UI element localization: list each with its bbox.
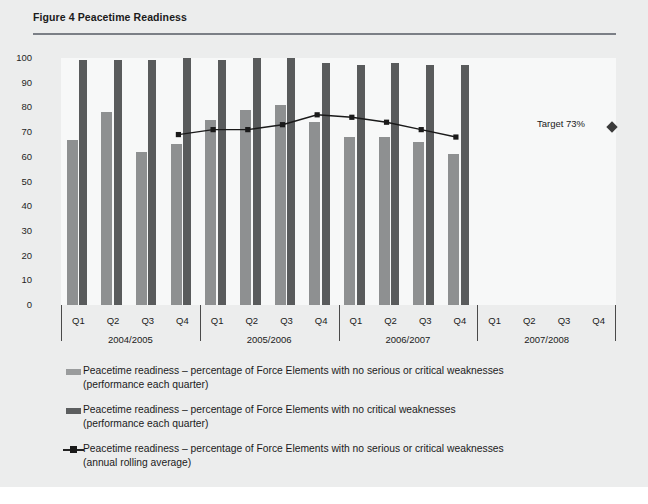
title-divider <box>33 33 616 35</box>
bar-dark-2005-2006-Q1 <box>218 60 226 305</box>
axis-separator <box>339 305 340 341</box>
axis-separator <box>61 305 62 341</box>
legend-item-label: Peacetime readiness – percentage of Forc… <box>83 403 616 431</box>
bar-light-2004-2005-Q3 <box>136 152 147 305</box>
bar-light-2005-2006-Q4 <box>309 122 320 305</box>
x-axis-year-label: 2005/2006 <box>209 334 329 345</box>
legend-label-line-1: Peacetime readiness – percentage of Forc… <box>83 404 456 415</box>
rolling-average-point-2006-2007-Q1 <box>349 115 354 120</box>
x-axis-year-label: 2007/2008 <box>487 334 607 345</box>
y-axis-tick-label: 0 <box>10 299 32 310</box>
legend-item-3: Peacetime readiness – percentage of Forc… <box>33 442 616 470</box>
bar-dark-2006-2007-Q2 <box>391 63 399 305</box>
rolling-average-point-2005-2006-Q4 <box>315 112 320 117</box>
y-axis-tick-label: 40 <box>10 200 32 211</box>
legend-label-line-1: Peacetime readiness – percentage of Forc… <box>83 443 504 454</box>
legend-label-line-1: Peacetime readiness – percentage of Forc… <box>83 365 504 376</box>
bar-light-2006-2007-Q4 <box>448 154 459 305</box>
target-label: Target 73% <box>537 118 585 129</box>
rolling-average-point-2006-2007-Q2 <box>384 120 389 125</box>
legend-dark-bar-icon <box>66 408 81 414</box>
legend-item-label: Peacetime readiness – percentage of Forc… <box>83 364 616 392</box>
bar-dark-2004-2005-Q2 <box>114 60 122 305</box>
y-axis-tick-label: 20 <box>10 250 32 261</box>
figure-container: Figure 4 Peacetime Readiness 10090807060… <box>0 0 648 504</box>
plot-area <box>61 58 616 305</box>
x-axis-quarter-label: Q2 <box>98 315 128 326</box>
legend-item-2: Peacetime readiness – percentage of Forc… <box>33 403 616 431</box>
bar-light-2004-2005-Q1 <box>67 140 78 305</box>
x-axis-quarter-label: Q1 <box>202 315 232 326</box>
legend: Peacetime readiness – percentage of Forc… <box>33 364 616 481</box>
axis-separator <box>615 305 616 341</box>
y-axis-tick-label: 10 <box>10 274 32 285</box>
legend-label-line-2: (annual rolling average) <box>83 456 616 470</box>
bar-dark-2004-2005-Q1 <box>79 60 87 305</box>
bar-dark-2005-2006-Q4 <box>322 63 330 305</box>
figure-title: Figure 4 Peacetime Readiness <box>33 11 187 23</box>
bar-dark-2005-2006-Q2 <box>253 58 261 305</box>
x-axis-quarter-label: Q4 <box>445 315 475 326</box>
rolling-average-point-2006-2007-Q4 <box>453 134 458 139</box>
x-axis-band: Q1Q2Q3Q4Q1Q2Q3Q4Q1Q2Q3Q4Q1Q2Q3Q42004/200… <box>61 305 616 357</box>
axis-separator <box>200 305 201 341</box>
rolling-average-point-2004-2005-Q4 <box>176 132 181 137</box>
x-axis-quarter-label: Q4 <box>167 315 197 326</box>
y-axis-tick-label: 80 <box>10 101 32 112</box>
bar-dark-2006-2007-Q1 <box>357 65 365 305</box>
legend-light-bar-icon <box>66 369 81 375</box>
legend-label-line-2: (performance each quarter) <box>83 417 616 431</box>
y-axis-tick-label: 50 <box>10 176 32 187</box>
bar-dark-2006-2007-Q3 <box>426 65 434 305</box>
bar-light-2005-2006-Q3 <box>275 105 286 305</box>
x-axis-quarter-label: Q2 <box>514 315 544 326</box>
bar-light-2005-2006-Q2 <box>240 110 251 305</box>
x-axis-quarter-label: Q1 <box>480 315 510 326</box>
x-axis-quarter-label: Q4 <box>306 315 336 326</box>
bar-light-2006-2007-Q1 <box>344 137 355 305</box>
plot-wrapper <box>33 50 616 310</box>
x-axis-quarter-label: Q3 <box>271 315 301 326</box>
x-axis-quarter-label: Q4 <box>584 315 614 326</box>
bar-light-2004-2005-Q2 <box>101 112 112 305</box>
rolling-average-point-2006-2007-Q3 <box>419 127 424 132</box>
legend-item-label: Peacetime readiness – percentage of Forc… <box>83 442 616 470</box>
y-axis-tick-label: 90 <box>10 77 32 88</box>
y-axis-tick-label: 60 <box>10 151 32 162</box>
x-axis-quarter-label: Q3 <box>549 315 579 326</box>
x-axis-quarter-label: Q2 <box>376 315 406 326</box>
bar-light-2006-2007-Q3 <box>413 142 424 305</box>
y-axis-tick-label: 100 <box>10 52 32 63</box>
x-axis-quarter-label: Q2 <box>237 315 267 326</box>
x-axis-quarter-label: Q1 <box>63 315 93 326</box>
x-axis-quarter-label: Q3 <box>133 315 163 326</box>
bar-dark-2005-2006-Q3 <box>287 58 295 305</box>
bar-dark-2006-2007-Q4 <box>461 65 469 305</box>
bar-dark-2004-2005-Q3 <box>148 60 156 305</box>
legend-square-marker-icon <box>70 446 77 453</box>
x-axis-year-label: 2006/2007 <box>348 334 468 345</box>
axis-separator <box>477 305 478 341</box>
page-bottom-strip <box>0 487 648 504</box>
legend-item-1: Peacetime readiness – percentage of Forc… <box>33 364 616 392</box>
bar-light-2004-2005-Q4 <box>171 144 182 305</box>
x-axis-quarter-label: Q3 <box>410 315 440 326</box>
legend-label-line-2: (performance each quarter) <box>83 378 616 392</box>
x-axis-quarter-label: Q1 <box>341 315 371 326</box>
y-axis-tick-label: 30 <box>10 225 32 236</box>
y-axis-tick-label: 70 <box>10 126 32 137</box>
x-axis-year-label: 2004/2005 <box>70 334 190 345</box>
bar-light-2005-2006-Q1 <box>205 120 216 305</box>
bar-dark-2004-2005-Q4 <box>183 58 191 305</box>
bar-light-2006-2007-Q2 <box>379 137 390 305</box>
